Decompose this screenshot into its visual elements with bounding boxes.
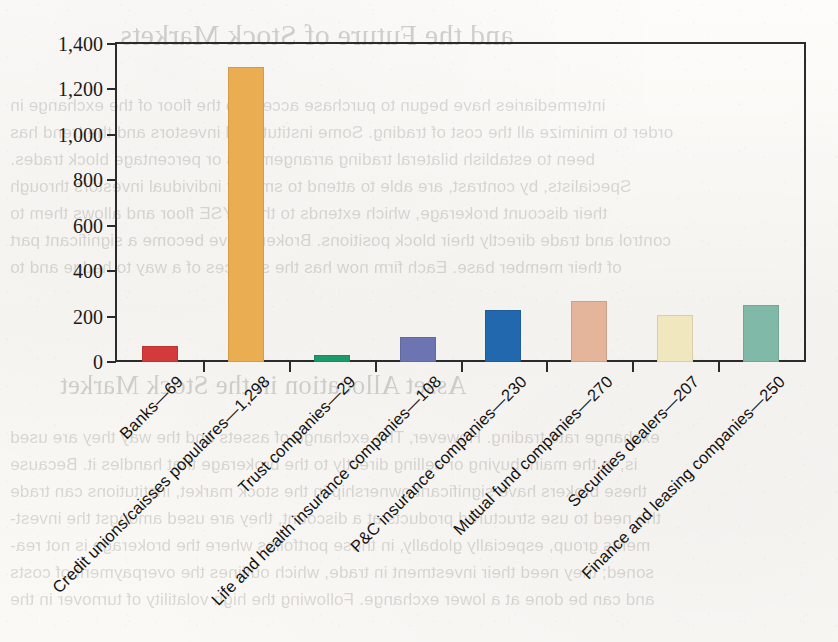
y-tick-label: 600 bbox=[73, 214, 103, 237]
scanned-page: and the Future of Stock Markets intermed… bbox=[0, 0, 838, 642]
bar bbox=[314, 355, 350, 362]
y-tick-label: 200 bbox=[73, 305, 103, 328]
x-axis-label-text: P&C insurance companies—230 bbox=[347, 372, 531, 556]
bar bbox=[571, 301, 607, 362]
bar bbox=[142, 346, 178, 362]
y-tick-mark bbox=[107, 43, 116, 45]
bar bbox=[228, 67, 264, 362]
y-tick-mark bbox=[107, 88, 116, 90]
y-tick-label: 0 bbox=[93, 351, 103, 374]
y-tick-mark bbox=[107, 316, 116, 318]
bar bbox=[743, 305, 779, 362]
x-tick-mark bbox=[718, 362, 720, 372]
x-axis-label-text: Banks—69 bbox=[116, 372, 187, 443]
y-tick-label: 400 bbox=[73, 260, 103, 283]
y-tick-label: 1,200 bbox=[58, 78, 103, 101]
x-tick-mark bbox=[289, 362, 291, 372]
x-tick-mark bbox=[632, 362, 634, 372]
bar bbox=[400, 337, 436, 362]
x-tick-mark bbox=[461, 362, 463, 372]
y-tick-mark bbox=[107, 225, 116, 227]
y-tick-mark bbox=[107, 361, 116, 363]
bar bbox=[657, 315, 693, 362]
bar bbox=[485, 310, 521, 362]
x-axis-label-text: Mutual fund companies—270 bbox=[450, 372, 617, 539]
y-tick-mark bbox=[107, 179, 116, 181]
x-tick-mark bbox=[546, 362, 548, 372]
y-tick-mark bbox=[107, 270, 116, 272]
y-tick-label: 1,000 bbox=[58, 123, 103, 146]
x-tick-mark bbox=[203, 362, 205, 372]
x-tick-mark bbox=[375, 362, 377, 372]
bar-chart: 02004006008001,0001,2001,400 Banks—69Cre… bbox=[0, 0, 838, 642]
y-tick-mark bbox=[107, 134, 116, 136]
y-tick-label: 800 bbox=[73, 169, 103, 192]
y-tick-label: 1,400 bbox=[58, 33, 103, 56]
bar-series bbox=[117, 44, 804, 362]
